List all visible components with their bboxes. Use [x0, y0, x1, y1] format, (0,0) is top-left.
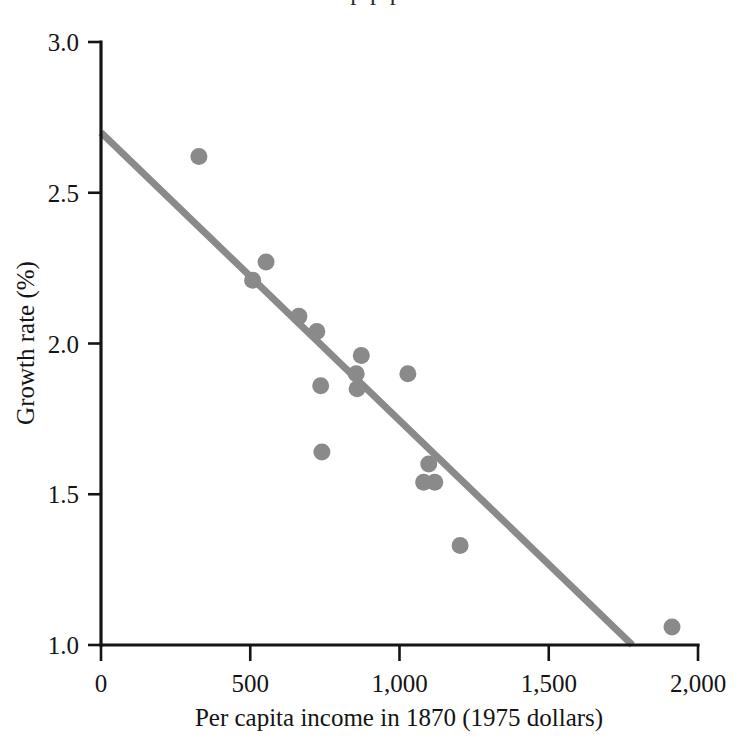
- data-point: [420, 456, 437, 473]
- data-point: [349, 380, 366, 397]
- y-tick-label: 2.5: [48, 180, 79, 207]
- data-point: [308, 323, 325, 340]
- data-point: [313, 444, 330, 461]
- x-tick-label: 2,000: [670, 670, 726, 697]
- chart-figure: p p p 1.01.52.02.53.0 05001,0001,5002,00…: [0, 0, 753, 755]
- data-point: [312, 377, 329, 394]
- x-tick-label: 500: [232, 670, 270, 697]
- data-point: [244, 272, 261, 289]
- data-point: [452, 537, 469, 554]
- x-ticks-group: 05001,0001,5002,000: [95, 645, 726, 697]
- y-tick-label: 2.0: [48, 331, 79, 358]
- data-point: [353, 347, 370, 364]
- data-point: [399, 365, 416, 382]
- x-tick-label: 1,500: [521, 670, 577, 697]
- data-point: [664, 618, 681, 635]
- data-point: [290, 308, 307, 325]
- regression-line-group: [101, 132, 632, 645]
- x-tick-label: 0: [95, 670, 108, 697]
- x-axis-title: Per capita income in 1870 (1975 dollars): [195, 704, 603, 732]
- regression-line: [101, 132, 632, 645]
- y-tick-label: 3.0: [48, 29, 79, 56]
- data-point: [426, 474, 443, 491]
- y-tick-label: 1.0: [48, 632, 79, 659]
- y-axis-title: Growth rate (%): [12, 261, 40, 425]
- data-point: [258, 254, 275, 271]
- data-point: [190, 148, 207, 165]
- y-tick-label: 1.5: [48, 481, 79, 508]
- y-ticks-group: 1.01.52.02.53.0: [48, 29, 101, 659]
- scatter-plot: 1.01.52.02.53.0 05001,0001,5002,000 Per …: [0, 0, 753, 755]
- axes-group: [101, 42, 698, 645]
- x-tick-label: 1,000: [371, 670, 427, 697]
- data-point: [348, 365, 365, 382]
- data-points-group: [190, 148, 680, 635]
